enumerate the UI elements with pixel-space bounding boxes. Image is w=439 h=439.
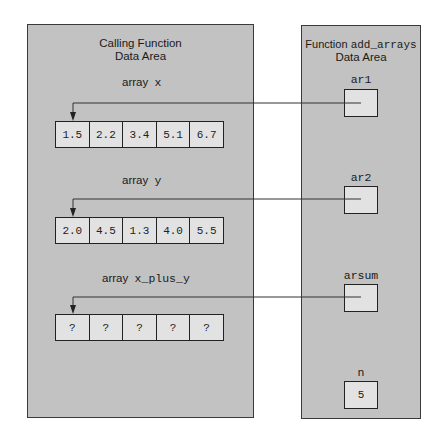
arrowhead-icon (70, 305, 76, 314)
ar1-pointer-arrow (73, 103, 361, 112)
arsum-pointer-arrow (73, 297, 361, 305)
arrowhead-icon (70, 208, 76, 217)
arrowhead-icon (70, 112, 76, 121)
ar2-pointer-arrow (73, 199, 361, 208)
pointer-arrows (0, 0, 439, 439)
